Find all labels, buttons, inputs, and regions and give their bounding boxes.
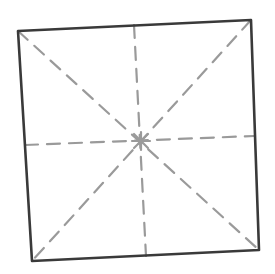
center-intersection-mark xyxy=(132,132,150,150)
fold-diagram xyxy=(0,0,275,274)
